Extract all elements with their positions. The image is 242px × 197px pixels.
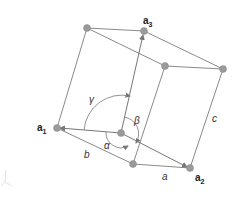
atom-top-left [84, 25, 91, 32]
label-a3: a3 [143, 15, 153, 28]
label-a: a [162, 171, 168, 182]
label-b: b [84, 149, 90, 160]
atom-a2 [187, 165, 194, 172]
atom-top-middle [162, 63, 169, 70]
atom-bottom-middle [130, 161, 137, 168]
atom-top-right [220, 66, 227, 73]
label-gamma: γ [89, 94, 95, 105]
label-c: c [212, 113, 217, 124]
label-a2: a2 [195, 172, 205, 185]
atom-a3 [141, 28, 148, 35]
angle-labels: γ β α [89, 94, 140, 151]
label-beta: β [133, 115, 140, 126]
label-alpha: α [104, 140, 110, 151]
atom-a1 [54, 125, 61, 132]
vector-a1 [60, 128, 121, 133]
label-a1: a1 [37, 122, 47, 135]
unit-cell-diagram: a3 a1 a2 b a c γ β α [0, 0, 242, 197]
vector-labels: a3 a1 a2 [37, 15, 205, 185]
atom-origin [118, 130, 125, 137]
axes-icon [1, 170, 12, 186]
